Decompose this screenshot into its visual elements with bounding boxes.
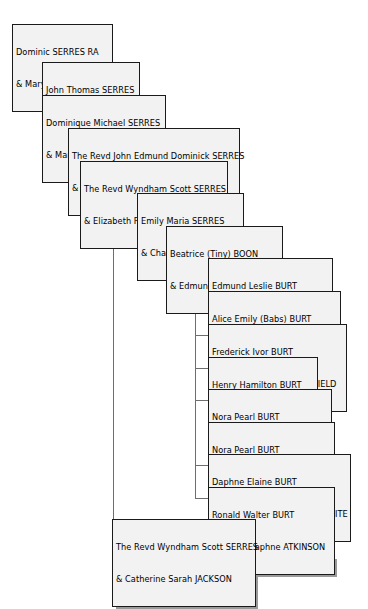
person-name: The Revd Wyndham Scott SERRES — [116, 542, 252, 553]
person-name: The Revd John Edmund Dominick SERRES — [72, 151, 236, 162]
person-name: Emily Maria SERRES — [141, 216, 240, 227]
person-name: Frederick Ivor BURT — [212, 347, 343, 358]
person-name: Daphne Elaine BURT — [212, 477, 347, 488]
person-node-wyndham-scott-serres-2[interactable]: The Revd Wyndham Scott SERRES & Catherin… — [112, 519, 256, 607]
person-name: Dominique Michael SERRES — [46, 118, 162, 129]
person-name: John Thomas SERRES — [46, 85, 136, 96]
connector-rail-to-n10 — [195, 335, 208, 336]
spouse-name: & Catherine Sarah JACKSON — [116, 574, 252, 585]
connector-rail-to-n11 — [195, 368, 208, 369]
person-name: Nora Pearl BURT — [212, 412, 328, 423]
person-name: Edmund Leslie BURT — [212, 281, 329, 292]
connector-rail-to-n15 — [195, 498, 208, 499]
connector-rail-to-n12 — [195, 400, 208, 401]
connector-rail-to-n14 — [195, 465, 208, 466]
person-name: Dominic SERRES RA — [16, 47, 109, 58]
person-name: Alice Emily (Babs) BURT — [212, 314, 337, 325]
